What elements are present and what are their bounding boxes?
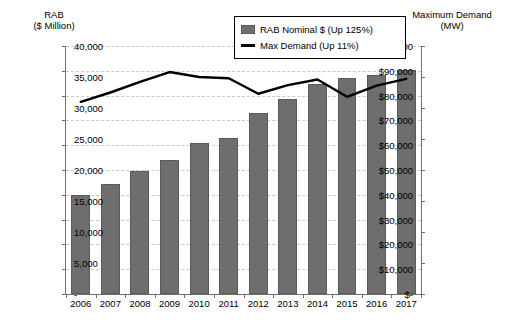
chart-container: RAB ($ Million) Maximum Demand (MW) $-$1… bbox=[0, 0, 505, 333]
x-axis-tick-label: 2016 bbox=[362, 298, 392, 309]
legend-item-rab: RAB Nominal $ (Up 125%) bbox=[241, 21, 399, 37]
y-axis-right-tickmark bbox=[421, 139, 425, 140]
legend-bar-swatch-icon bbox=[241, 25, 255, 34]
y-axis-right-tickmark bbox=[421, 263, 425, 264]
x-axis-tick-label: 2014 bbox=[303, 298, 333, 309]
chart-legend: RAB Nominal $ (Up 125%) Max Demand (Up 1… bbox=[234, 16, 406, 59]
right-axis-title-line2: (MW) bbox=[402, 20, 502, 31]
y-axis-right-tickmark bbox=[421, 108, 425, 109]
y-axis-left-tickmark bbox=[62, 195, 66, 196]
x-axis-tick-label: 2006 bbox=[66, 298, 96, 309]
x-axis-tick-label: 2015 bbox=[332, 298, 362, 309]
legend-label-max-demand: Max Demand (Up 11%) bbox=[260, 40, 359, 51]
y-axis-left-tickmark bbox=[62, 120, 66, 121]
y-axis-left-tickmark bbox=[62, 46, 66, 47]
max-demand-polyline bbox=[81, 72, 406, 102]
y-axis-left-tick-label: $50,000 bbox=[379, 165, 413, 176]
y-axis-right-tick-label: 20,000 bbox=[74, 165, 103, 176]
x-axis-tick-label: 2010 bbox=[184, 298, 214, 309]
left-axis-title-line1: RAB bbox=[18, 9, 90, 20]
legend-line-swatch-icon bbox=[241, 44, 255, 47]
x-axis-tick-label: 2007 bbox=[96, 298, 126, 309]
y-axis-left-tick-label: $20,000 bbox=[379, 239, 413, 250]
legend-item-max-demand: Max Demand (Up 11%) bbox=[241, 37, 399, 53]
left-axis-title: RAB ($ Million) bbox=[18, 9, 90, 31]
x-axis-tick-label: 2008 bbox=[125, 298, 155, 309]
x-axis-tick-label: 2013 bbox=[273, 298, 303, 309]
y-axis-left-tick-label: $40,000 bbox=[379, 189, 413, 200]
y-axis-right-tickmark bbox=[421, 77, 425, 78]
y-axis-right-tick-label: 40,000 bbox=[74, 41, 103, 52]
y-axis-left-tickmark bbox=[62, 145, 66, 146]
y-axis-left-tickmark bbox=[62, 244, 66, 245]
x-axis-tick-label: 2011 bbox=[214, 298, 244, 309]
y-axis-right-tickmark bbox=[421, 201, 425, 202]
line-series bbox=[66, 46, 421, 294]
y-axis-right-tick-label: 25,000 bbox=[74, 134, 103, 145]
y-axis-right-tickmark bbox=[421, 170, 425, 171]
x-axis-tick-label: 2012 bbox=[244, 298, 274, 309]
y-axis-right-tick-label: 35,000 bbox=[74, 72, 103, 83]
x-axis-tickmark bbox=[421, 294, 422, 298]
y-axis-left-tickmark bbox=[62, 96, 66, 97]
x-axis-tickmark bbox=[66, 294, 67, 298]
y-axis-left-tickmark bbox=[62, 170, 66, 171]
x-axis-tick-label: 2009 bbox=[155, 298, 185, 309]
plot-area: $-$10,000$20,000$30,000$40,000$50,000$60… bbox=[66, 46, 421, 294]
y-axis-right-tick-label: 15,000 bbox=[74, 196, 103, 207]
y-axis-right-tick-label: 30,000 bbox=[74, 103, 103, 114]
x-axis-tick-label: 2017 bbox=[391, 298, 421, 309]
y-axis-left-tickmark bbox=[62, 269, 66, 270]
y-axis-left-tick-label: $70,000 bbox=[379, 115, 413, 126]
right-axis-title: Maximum Demand (MW) bbox=[402, 9, 502, 31]
y-axis-left-tick-label: $80,000 bbox=[379, 90, 413, 101]
y-axis-left-tickmark bbox=[62, 71, 66, 72]
left-axis-title-line2: ($ Million) bbox=[18, 20, 90, 31]
y-axis-right-tick-label: 10,000 bbox=[74, 227, 103, 238]
y-axis-right-tick-label: 5,000 bbox=[74, 258, 98, 269]
y-axis-left-tickmark bbox=[62, 220, 66, 221]
legend-label-rab: RAB Nominal $ (Up 125%) bbox=[260, 24, 373, 35]
y-axis-left-tick-label: $90,000 bbox=[379, 65, 413, 76]
y-axis-right-tickmark bbox=[421, 46, 425, 47]
right-axis-title-line1: Maximum Demand bbox=[402, 9, 502, 20]
y-axis-left-tick-label: $30,000 bbox=[379, 214, 413, 225]
y-axis-right-tickmark bbox=[421, 232, 425, 233]
y-axis-left-tick-label: $60,000 bbox=[379, 140, 413, 151]
y-axis-left-tick-label: $10,000 bbox=[379, 264, 413, 275]
